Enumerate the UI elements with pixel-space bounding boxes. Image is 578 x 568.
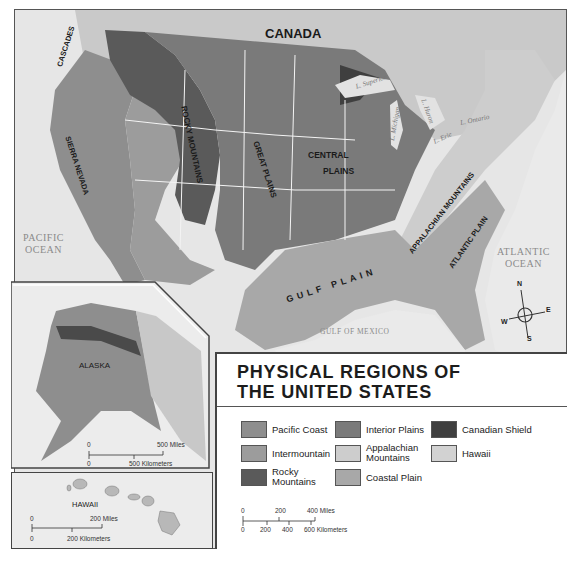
compass-icon	[501, 282, 551, 342]
legend-panel: PHYSICAL REGIONS OF THE UNITED STATES Pa…	[215, 352, 567, 549]
legend-swatch	[335, 469, 361, 486]
hawaii-scale-zero-miles: 0	[30, 515, 34, 522]
hawaii-scale-bar	[32, 524, 102, 532]
compass-rose: N S E W	[501, 282, 551, 342]
legend-label: Pacific Coast	[272, 425, 327, 435]
scale-miles-200: 200	[275, 507, 286, 514]
hawaii-canvas	[12, 473, 212, 548]
atlantic-ocean-label: ATLANTIC OCEAN	[497, 246, 550, 270]
legend-swatch	[335, 445, 361, 462]
scale-km-600: 600 Kilometers	[304, 526, 347, 533]
legend-label: Hawaii	[462, 449, 491, 459]
alaska-scale-zero-miles: 0	[87, 441, 91, 448]
legend-item-rocky-mountains: Rocky Mountains	[241, 467, 322, 487]
legend-label: Interior Plains	[366, 425, 424, 435]
alaska-inset: ALASKA 0 500 Miles 0 500 Kilometers	[11, 281, 211, 469]
legend-swatch	[335, 421, 361, 438]
gulf-of-mexico-label: GULF OF MEXICO	[320, 326, 390, 338]
scale-miles-0: 0	[241, 507, 245, 514]
scale-km-0: 0	[241, 526, 245, 533]
legend-item-canadian-shield: Canadian Shield	[431, 421, 532, 438]
alaska-label: ALASKA	[79, 361, 110, 370]
legend-swatch	[431, 445, 457, 462]
legend-item-interior-plains: Interior Plains	[335, 421, 424, 438]
central-plains-label-line1: CENTRAL	[308, 150, 349, 160]
legend-item-intermountain: Intermountain	[241, 445, 330, 462]
legend-swatch	[241, 421, 267, 438]
hawaii-scale-zero-km: 0	[30, 535, 34, 542]
hawaii-inset: HAWAII 0 200 Miles 0 200 Kilometers	[11, 472, 213, 549]
hawaii-scale-miles: 200 Miles	[90, 515, 118, 522]
legend-label: Rocky Mountains	[272, 467, 322, 487]
legend-item-hawaii: Hawaii	[431, 445, 491, 462]
atlantic-ocean-label-line1: ATLANTIC	[497, 246, 550, 258]
hawaii-scale-km: 200 Kilometers	[67, 535, 110, 542]
scale-miles-400: 400 Miles	[307, 507, 335, 514]
legend-swatch	[241, 445, 267, 462]
map-title-line2: THE UNITED STATES	[237, 382, 461, 402]
canada-label: CANADA	[265, 26, 321, 41]
legend-item-appalachian-mountains: Appalachian Mountains	[335, 443, 426, 463]
pacific-ocean-label: PACIFIC OCEAN	[23, 232, 64, 256]
scale-km-400: 400	[282, 526, 293, 533]
legend-label: Coastal Plain	[366, 473, 422, 483]
compass-south: S	[527, 335, 532, 342]
legend-label: Canadian Shield	[462, 425, 532, 435]
central-plains-label-line2: PLAINS	[323, 166, 354, 176]
legend-divider	[217, 406, 567, 407]
alaska-scale-zero-km: 0	[87, 460, 91, 467]
map-title-line1: PHYSICAL REGIONS OF	[237, 362, 461, 382]
compass-west: W	[501, 318, 508, 325]
legend-swatch	[431, 421, 457, 438]
legend-item-coastal-plain: Coastal Plain	[335, 469, 422, 486]
pacific-ocean-label-line2: OCEAN	[23, 244, 64, 256]
legend-label: Intermountain	[272, 449, 330, 459]
pacific-ocean-label-line1: PACIFIC	[23, 232, 64, 244]
alaska-scale-km: 500 Kilometers	[129, 460, 172, 467]
map-title: PHYSICAL REGIONS OF THE UNITED STATES	[237, 362, 461, 402]
scale-km-200: 200	[260, 526, 271, 533]
alaska-scale-miles: 500 Miles	[157, 441, 185, 448]
atlantic-ocean-label-line2: OCEAN	[497, 258, 550, 270]
compass-north: N	[517, 280, 522, 287]
legend-swatch	[241, 469, 267, 486]
hawaii-label: HAWAII	[72, 500, 98, 509]
legend-label: Appalachian Mountains	[366, 443, 426, 463]
compass-east: E	[546, 306, 551, 313]
legend-item-pacific-coast: Pacific Coast	[241, 421, 327, 438]
